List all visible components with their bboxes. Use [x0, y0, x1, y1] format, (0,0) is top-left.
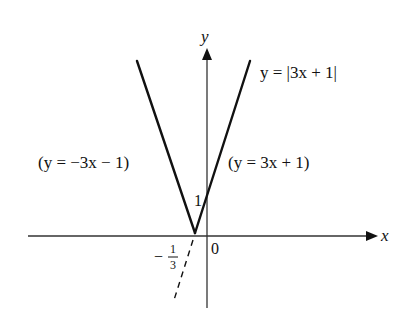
graph-canvas: x y y = |3x + 1| (y = −3x − 1) (y = 3x +… [0, 0, 403, 327]
dashed-continuation-line [174, 240, 193, 300]
fraction-denominator: 3 [170, 258, 176, 272]
origin-label: 0 [211, 240, 219, 257]
x-intercept-label: − 1 3 [154, 242, 178, 272]
x-axis-label: x [380, 226, 389, 245]
left-branch-line [137, 61, 195, 233]
function-label: y = |3x + 1| [260, 63, 337, 82]
fraction-numerator: 1 [170, 242, 176, 256]
right-branch-line [195, 61, 250, 233]
fraction-sign: − [154, 248, 163, 265]
x-axis-arrow-icon [366, 231, 378, 241]
y-axis-label: y [199, 27, 209, 46]
y-axis-arrow-icon [202, 48, 212, 60]
right-branch-label: (y = 3x + 1) [228, 153, 310, 172]
left-branch-label: (y = −3x − 1) [38, 153, 129, 172]
y-intercept-label: 1 [194, 192, 202, 209]
